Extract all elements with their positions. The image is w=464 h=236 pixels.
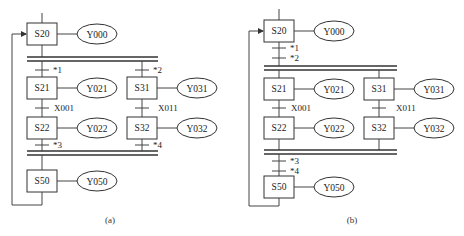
output-label: Y031 [186,84,207,94]
step-label: S22 [35,123,50,133]
output-label: Y050 [323,183,344,193]
transition-label: *2 [290,53,299,63]
sfc-diagram-canvas: S20 Y000 *1 S21 Y021 X001 S22 [0,0,464,236]
transition-label: *4 [290,166,300,176]
caption-b: (b) [347,215,358,225]
step-label: S32 [135,123,150,133]
output-y021: Y021 [314,79,354,99]
output-label: Y021 [86,84,107,94]
output-y031: Y031 [177,78,217,98]
output-y022: Y022 [314,118,354,138]
diagram-a: S20 Y000 *1 S21 Y021 X001 S22 [12,13,217,225]
step-s31: S31 [364,78,394,100]
step-label: S21 [35,83,50,93]
output-label: Y022 [323,124,344,134]
step-label: S31 [135,83,150,93]
output-y032: Y032 [177,118,217,138]
step-s50: S50 [27,170,57,192]
output-label: Y032 [423,124,444,134]
transition-label: *1 [53,65,62,75]
step-label: S31 [372,84,387,94]
step-s32: S32 [127,117,157,139]
step-label: S21 [272,84,287,94]
transition-label: X001 [54,103,74,113]
output-y050: Y050 [314,177,354,197]
step-label: S20 [35,29,50,39]
step-label: S20 [272,26,287,36]
step-s50: S50 [264,176,294,198]
output-y022: Y022 [77,118,117,138]
output-y021: Y021 [77,78,117,98]
step-label: S22 [272,123,287,133]
step-s20: S20 [264,20,294,42]
step-s22: S22 [27,117,57,139]
output-label: Y022 [86,124,107,134]
step-s32: S32 [364,117,394,139]
transition-label: X011 [396,103,416,113]
output-label: Y031 [423,85,444,95]
step-label: S32 [372,123,387,133]
step-s21: S21 [27,77,57,99]
output-y000: Y000 [77,24,117,44]
output-label: Y000 [86,30,107,40]
output-y000: Y000 [314,21,354,41]
step-s31: S31 [127,77,157,99]
output-y050: Y050 [77,171,117,191]
output-y031: Y031 [414,79,454,99]
output-label: Y050 [86,177,107,187]
output-label: Y000 [323,27,344,37]
output-y032: Y032 [414,118,454,138]
output-label: Y032 [186,124,207,134]
transition-label: *3 [290,156,300,166]
step-label: S50 [35,176,50,186]
step-s22: S22 [264,117,294,139]
transition-label: X001 [291,103,311,113]
transition-label: *2 [153,65,162,75]
step-label: S50 [272,182,287,192]
step-s20: S20 [27,23,57,45]
diagram-b: S20 Y000 *1 *2 S21 Y021 X001 S22 [249,9,454,225]
output-label: Y021 [323,85,344,95]
caption-a: (a) [105,215,115,225]
transition-label: *3 [53,140,63,150]
transition-label: *4 [153,140,163,150]
transition-label: X011 [158,103,178,113]
step-s21: S21 [264,78,294,100]
transition-label: *1 [290,43,299,53]
